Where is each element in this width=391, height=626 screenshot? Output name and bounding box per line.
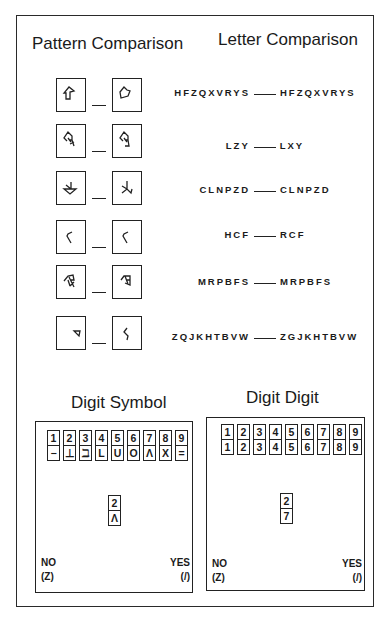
letter-left-5: MRPBFS (198, 276, 250, 287)
key-digit-bottom: 6 (302, 439, 313, 454)
key-symbol: X (160, 445, 171, 460)
key-digit-top: 9 (350, 425, 361, 439)
letter-pair-5: MRPBFSMRPBFS (150, 276, 380, 287)
yes-label: YES (170, 556, 190, 570)
key-digit: 2 (64, 431, 75, 445)
letter-right-6: ZGJKHTBVW (280, 331, 358, 342)
key-symbol: − (48, 445, 59, 460)
yes-key-hint: (/) (342, 571, 362, 585)
key-cell-3: 3ℶ (79, 430, 92, 461)
pentagon-flag-shape-icon (113, 79, 140, 110)
pattern-left-6 (56, 316, 86, 350)
key-digit-bottom: 3 (254, 439, 265, 454)
pair-separator (92, 105, 106, 106)
yes-label: YES (342, 557, 362, 571)
small-triangle-icon (57, 317, 84, 348)
key-cell-9: 99 (349, 424, 362, 455)
digit-symbol-title: Digit Symbol (71, 393, 166, 413)
letter-pair-3: CLNPZDCLNPZD (150, 184, 380, 195)
letter-left-4: HCF (224, 229, 250, 240)
key-digit-bottom: 5 (286, 439, 297, 454)
key-digit: 7 (144, 431, 155, 445)
pattern-left-1 (56, 78, 86, 112)
key-digit-top: 8 (334, 425, 345, 439)
key-digit-top: 3 (254, 425, 265, 439)
digit-digit-title: Digit Digit (246, 388, 319, 408)
key-cell-5: 5U (111, 430, 124, 461)
letter-comparison-title: Letter Comparison (218, 30, 358, 50)
key-digit-top: 7 (318, 425, 329, 439)
pattern-pair-1 (56, 78, 142, 114)
pattern-left-4 (56, 220, 86, 254)
letter-left-2: LZY (226, 140, 250, 151)
digit-digit-probe: 27 (280, 493, 293, 524)
pattern-right-4 (112, 220, 142, 254)
angle-bracket-left-icon (113, 221, 140, 252)
key-digit-top: 5 (286, 425, 297, 439)
no-response[interactable]: NO (Z) (41, 556, 56, 584)
letter-left-6: ZQJKHTBVW (172, 331, 250, 342)
key-digit-bottom: 7 (318, 439, 329, 454)
key-symbol: ℶ (80, 445, 91, 460)
key-cell-3: 33 (253, 424, 266, 455)
pattern-pair-6 (56, 316, 142, 352)
digit-symbol-probe: 2Λ (108, 495, 121, 526)
pattern-right-3 (112, 171, 142, 205)
key-cell-8: 8X (159, 430, 172, 461)
key-digit-bottom: 2 (238, 439, 249, 454)
probe-digit-top: 2 (281, 494, 292, 508)
key-symbol: ⊥ (64, 445, 75, 460)
key-digit-bottom: 9 (350, 439, 361, 454)
flag-crossed-shape-icon (57, 266, 84, 297)
letter-pair-4: HCFRCF (150, 229, 380, 240)
key-cell-7: 7Λ (143, 430, 156, 461)
pattern-left-2 (56, 124, 86, 158)
pattern-right-1 (112, 78, 142, 112)
key-cell-6: 6O (127, 430, 140, 461)
letter-pair-1: HFZQXVRYSHFZQXVRYS (150, 87, 380, 98)
digit-digit-panel: 11 22 33 44 55 66 77 88 99 27 NO (Z) YES… (206, 417, 365, 591)
down-arrow-triangle-icon (57, 172, 84, 203)
pair-separator (92, 198, 106, 199)
key-symbol: = (176, 445, 187, 460)
letter-right-5: MRPBFS (280, 276, 332, 287)
pair-separator (92, 343, 106, 344)
probe-symbol: Λ (109, 510, 120, 525)
digit-symbol-panel: 1− 2⊥ 3ℶ 4L 5U 6O 7Λ 8X 9= 2Λ NO (Z) YES… (35, 421, 193, 593)
key-cell-7: 77 (317, 424, 330, 455)
key-cell-5: 55 (285, 424, 298, 455)
key-digit: 6 (128, 431, 139, 445)
pattern-pair-4 (56, 220, 142, 256)
probe-digit-bottom: 7 (281, 508, 292, 523)
key-cell-6: 66 (301, 424, 314, 455)
key-digit-top: 2 (238, 425, 249, 439)
key-digit: 4 (96, 431, 107, 445)
letter-right-2: LXY (280, 140, 304, 151)
key-cell-2: 2⊥ (63, 430, 76, 461)
answer-blank (254, 338, 276, 339)
yes-response[interactable]: YES (/) (342, 557, 362, 585)
key-symbol: O (128, 445, 139, 460)
hook-stroke-icon (113, 317, 140, 348)
yes-response[interactable]: YES (/) (170, 556, 190, 584)
key-cell-4: 4L (95, 430, 108, 461)
key-digit: 9 (176, 431, 187, 445)
key-digit: 8 (160, 431, 171, 445)
pattern-comparison-title: Pattern Comparison (32, 34, 183, 54)
pattern-right-2 (112, 124, 142, 158)
no-label: NO (41, 556, 56, 570)
letter-right-1: HFZQXVRYS (280, 87, 356, 98)
answer-blank (254, 236, 276, 237)
key-symbol: Λ (144, 445, 155, 460)
pair-separator (92, 247, 106, 248)
pattern-right-5 (112, 265, 142, 299)
arrow-house-shape-icon (57, 79, 84, 110)
no-label: NO (212, 557, 227, 571)
down-arrow-k-stroke-icon (113, 172, 140, 203)
flag-crossed-shape-variant-icon (113, 266, 140, 297)
yes-key-hint: (/) (170, 570, 190, 584)
key-digit-top: 6 (302, 425, 313, 439)
no-response[interactable]: NO (Z) (212, 557, 227, 585)
key-digit: 1 (48, 431, 59, 445)
answer-blank (254, 147, 276, 148)
